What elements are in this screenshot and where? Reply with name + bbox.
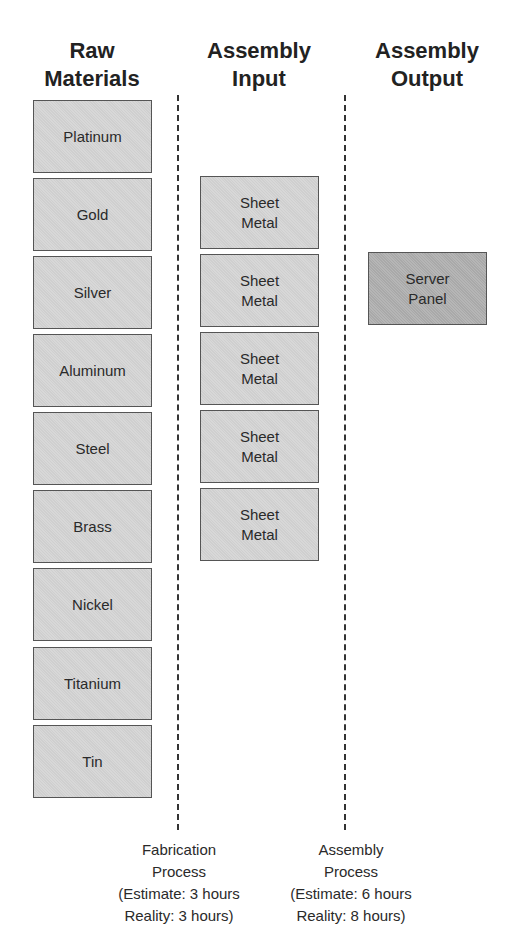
header-assembly-output: Assembly Output [357,37,497,93]
raw-material-box: Tin [33,725,152,798]
box-label: Nickel [72,595,113,615]
process-line: Process [266,861,436,883]
process-line: (Estimate: 6 hours [266,883,436,905]
process-line: Fabrication [94,839,264,861]
box-label: Sheet [240,271,279,291]
process-line: (Estimate: 3 hours [94,883,264,905]
header-line: Materials [22,65,162,93]
assembly-input-box: SheetMetal [200,176,319,249]
box-label: Brass [73,517,111,537]
box-label: Titanium [64,674,121,694]
box-label: Metal [240,525,279,545]
raw-material-box: Steel [33,412,152,485]
header-assembly-input: Assembly Input [189,37,329,93]
assembly-input-box: SheetMetal [200,254,319,327]
box-label: Sheet [240,193,279,213]
box-label: Gold [77,205,109,225]
box-label: Server [405,269,449,289]
assembly-divider [344,95,346,830]
raw-material-box: Platinum [33,100,152,173]
box-label: Silver [74,283,112,303]
header-line: Assembly [189,37,329,65]
box-label: Platinum [63,127,121,147]
box-label: Metal [240,213,279,233]
box-label: Sheet [240,349,279,369]
raw-material-box: Aluminum [33,334,152,407]
raw-material-box: Brass [33,490,152,563]
assembly-process-label: Assembly Process (Estimate: 6 hours Real… [266,839,436,927]
box-label: Metal [240,447,279,467]
assembly-input-box: SheetMetal [200,488,319,561]
assembly-input-box: SheetMetal [200,332,319,405]
header-line: Assembly [357,37,497,65]
box-label: Aluminum [59,361,126,381]
process-line: Reality: 8 hours) [266,905,436,927]
header-line: Input [189,65,329,93]
fabrication-divider [177,95,179,830]
box-label: Metal [240,369,279,389]
box-label: Tin [82,752,102,772]
header-line: Raw [22,37,162,65]
assembly-output-box: ServerPanel [368,252,487,325]
raw-material-box: Titanium [33,647,152,720]
header-raw-materials: Raw Materials [22,37,162,93]
assembly-input-box: SheetMetal [200,410,319,483]
header-line: Output [357,65,497,93]
box-label: Panel [405,289,449,309]
process-line: Reality: 3 hours) [94,905,264,927]
process-line: Assembly [266,839,436,861]
box-label: Sheet [240,505,279,525]
process-line: Process [94,861,264,883]
box-label: Sheet [240,427,279,447]
raw-material-box: Silver [33,256,152,329]
box-label: Metal [240,291,279,311]
box-label: Steel [75,439,109,459]
raw-material-box: Gold [33,178,152,251]
raw-material-box: Nickel [33,568,152,641]
fabrication-process-label: Fabrication Process (Estimate: 3 hours R… [94,839,264,927]
